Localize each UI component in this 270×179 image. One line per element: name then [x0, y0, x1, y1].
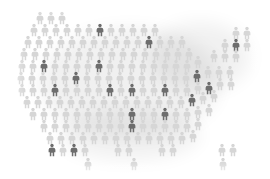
person-icon — [232, 50, 241, 63]
pictogram-map-canvas — [0, 0, 270, 179]
person-icon — [194, 56, 203, 69]
person-icon — [218, 144, 227, 157]
person-icon — [48, 144, 57, 157]
person-icon — [134, 132, 143, 145]
person-icon — [229, 144, 238, 157]
person-icon — [210, 50, 219, 63]
person-icon — [243, 39, 252, 52]
person-icon — [210, 90, 219, 103]
person-icon — [29, 108, 38, 121]
person-icon — [59, 144, 68, 157]
person-icon — [81, 144, 90, 157]
person-icon — [114, 144, 123, 157]
person-icon — [101, 132, 110, 145]
person-icon — [145, 132, 154, 145]
person-icon — [84, 158, 93, 171]
person-icon — [169, 144, 178, 157]
person-icon-grid — [0, 0, 270, 179]
person-icon — [130, 158, 139, 171]
person-icon — [219, 158, 228, 171]
person-icon — [221, 50, 230, 63]
person-icon — [158, 144, 167, 157]
person-icon — [204, 66, 213, 79]
person-icon — [227, 78, 236, 91]
person-icon — [178, 132, 187, 145]
person-icon — [90, 132, 99, 145]
person-icon — [125, 144, 134, 157]
person-icon — [189, 130, 198, 143]
person-icon — [205, 104, 214, 117]
person-icon — [70, 144, 79, 157]
